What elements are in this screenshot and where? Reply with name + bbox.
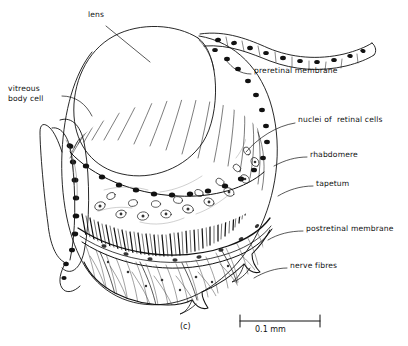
scale-bar-label: 0.1 mm	[255, 325, 286, 334]
label-nerve-fibres: nerve fibres	[290, 261, 337, 271]
leader-postretinal	[268, 231, 303, 240]
retinal-inner-boundary	[70, 152, 264, 196]
leader-rhabdomere	[274, 157, 307, 166]
label-tapetum: tapetum	[316, 179, 349, 189]
lens-outline	[74, 26, 216, 175]
figure-caption-label: (c)	[180, 322, 191, 331]
label-lens: lens	[88, 10, 104, 20]
retinal-radial-fibres	[70, 42, 264, 190]
leader-tapetum	[278, 186, 313, 196]
nerve-fibre-layer	[86, 227, 265, 305]
eye-section-drawing	[0, 0, 408, 346]
label-postretinal-membrane: postretinal membrane	[306, 224, 394, 234]
label-rhabdomere: rhabdomere	[310, 150, 358, 160]
leader-lens	[106, 26, 150, 62]
label-nuclei-of-retinal-cells: nuclei of retinal cells	[298, 115, 383, 125]
figure-canvas: lens vitreous body cell preretinal membr…	[0, 0, 408, 346]
retinal-cell-nuclei-field	[92, 65, 264, 224]
rhabdomere-layer	[82, 104, 266, 257]
leader-nerve	[254, 268, 287, 278]
label-preretinal-membrane: preretinal membrane	[254, 66, 338, 76]
label-vitreous-body-cell: vitreous body cell	[8, 84, 44, 103]
